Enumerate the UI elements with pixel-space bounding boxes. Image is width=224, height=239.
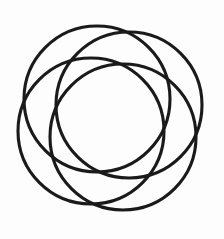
rosette-diagram (0, 0, 224, 239)
figure-canvas (0, 0, 224, 239)
circle-upper-right (56, 32, 202, 178)
circle-group (18, 26, 202, 210)
circle-lower-right (50, 64, 196, 210)
circle-upper-left (24, 26, 170, 172)
circle-lower-left (18, 58, 164, 204)
